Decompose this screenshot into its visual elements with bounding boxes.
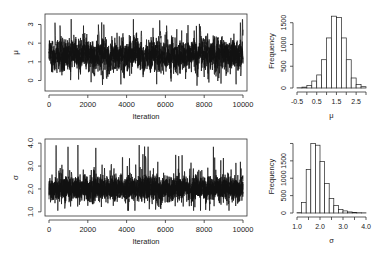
histogram-bar: [327, 38, 332, 88]
y-tick-label: 1000: [280, 37, 287, 53]
histogram-bar: [334, 205, 339, 213]
y-tick-label: 1000: [280, 170, 287, 186]
histogram-bar: [306, 170, 311, 213]
x-tick-label: 1.0: [292, 223, 302, 230]
y-tick-label: 2.0: [26, 184, 35, 194]
histogram-bar: [348, 212, 353, 213]
y-tick-label: 1.0: [26, 207, 35, 217]
x-tick-label: 6000: [157, 225, 174, 234]
x-tick-label: 10000: [233, 100, 254, 109]
x-tick-label: 2.5: [351, 98, 361, 105]
mcmc-diagnostic-figure: 0200040006000800010000Iteration0123μ -0.…: [0, 0, 383, 257]
histogram-bar: [346, 60, 351, 88]
y-axis-label: σ: [11, 175, 20, 180]
histogram-bar: [341, 38, 346, 88]
x-tick-label: -0.5: [291, 98, 303, 105]
histogram-bar: [361, 87, 366, 88]
y-tick-label: 500: [280, 190, 287, 202]
histogram-bar: [325, 183, 330, 213]
x-tick-label: 3.0: [338, 223, 348, 230]
trace-plot-sigma: 0200040006000800010000Iteration1.02.03.0…: [11, 138, 253, 246]
y-tick-label: 1: [26, 60, 35, 64]
x-tick-label: 2000: [79, 225, 96, 234]
histogram-bar: [329, 198, 334, 213]
y-axis-label: μ: [11, 50, 20, 55]
x-axis-label: σ: [329, 236, 334, 245]
histogram-bar: [352, 212, 357, 213]
histogram-bar: [322, 60, 327, 88]
histogram-bar: [320, 162, 325, 213]
x-tick-label: 4000: [118, 100, 135, 109]
y-tick-label: 3: [26, 22, 35, 26]
y-tick-label: 500: [280, 60, 287, 72]
histogram-bar: [307, 85, 312, 88]
y-axis-label: Frequency: [267, 33, 276, 69]
x-tick-label: 0: [47, 100, 51, 109]
y-tick-label: 0: [280, 86, 287, 90]
histogram-bar: [312, 81, 317, 88]
x-tick-label: 6000: [157, 100, 174, 109]
histogram-bar: [356, 85, 361, 88]
histogram-bar: [338, 210, 343, 213]
histogram-bar: [311, 143, 316, 213]
x-tick-label: 4000: [118, 225, 135, 234]
histogram-bar: [343, 211, 348, 213]
x-axis-label: Iteration: [132, 237, 159, 246]
y-tick-label: 4.0: [26, 138, 35, 148]
y-tick-label: 1500: [280, 153, 287, 169]
x-tick-label: 4.0: [361, 223, 371, 230]
x-tick-label: 10000: [233, 225, 254, 234]
histogram-bar: [302, 87, 307, 88]
trace-plot-mu: 0200040006000800010000Iteration0123μ: [11, 14, 253, 121]
x-tick-label: 1.5: [332, 98, 342, 105]
x-axis-label: Iteration: [132, 112, 159, 121]
x-tick-label: 0.5: [312, 98, 322, 105]
y-tick-label: 3.0: [26, 161, 35, 171]
y-axis-label: Frequency: [267, 159, 276, 195]
x-tick-label: 2.0: [315, 223, 325, 230]
y-tick-label: 0: [280, 211, 287, 215]
x-tick-label: 2000: [79, 100, 96, 109]
histogram-bar: [302, 203, 307, 213]
histogram-mu: -0.50.51.52.5μ050010001500Frequency: [267, 15, 366, 120]
histogram-bar: [315, 145, 320, 213]
x-tick-label: 8000: [196, 225, 213, 234]
histogram-bar: [332, 16, 337, 88]
histogram-bar: [317, 75, 322, 88]
x-tick-label: 8000: [196, 100, 213, 109]
histogram-bar: [351, 78, 356, 88]
y-tick-label: 2: [26, 41, 35, 45]
x-tick-label: 0: [47, 225, 51, 234]
y-tick-label: 1500: [280, 15, 287, 31]
y-tick-label: 0: [26, 78, 35, 82]
histogram-sigma: 1.02.03.04.0σ050010001500Frequency: [267, 143, 371, 245]
x-axis-label: μ: [329, 111, 333, 120]
histogram-bar: [336, 17, 341, 88]
